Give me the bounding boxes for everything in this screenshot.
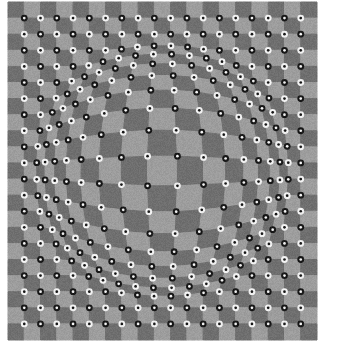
illusion-figure <box>0 0 347 354</box>
bulging-checkerboard-canvas <box>0 0 347 354</box>
